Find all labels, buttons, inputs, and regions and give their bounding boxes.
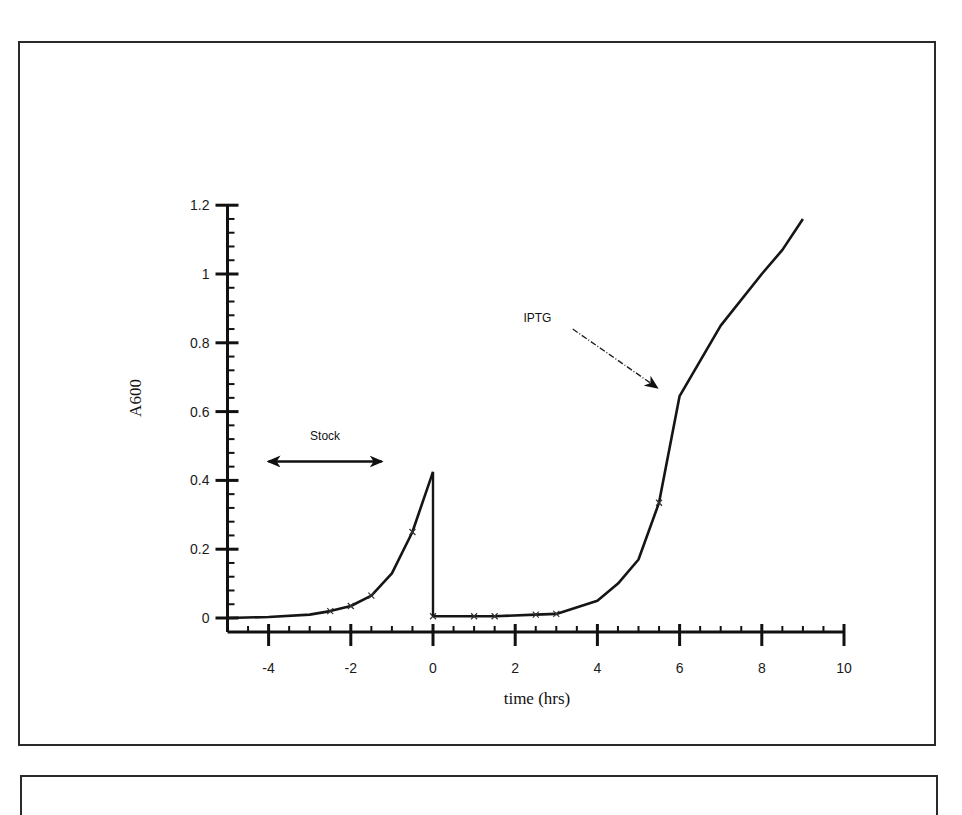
x-tick-label: -4 (262, 660, 275, 676)
annotations: StockIPTG (269, 311, 657, 461)
y-tick-label: 0 (202, 610, 210, 626)
y-tick-label: 1.2 (190, 197, 210, 213)
x-tick-label: 6 (676, 660, 684, 676)
y-axis-ticks: 00.20.40.60.811.2 (190, 197, 238, 626)
iptg-arrow (573, 329, 657, 387)
x-tick-label: 10 (836, 660, 852, 676)
data-series (228, 219, 803, 619)
stock-label: Stock (310, 429, 341, 443)
y-tick-label: 0.6 (190, 404, 210, 420)
x-axis-title: time (hrs) (504, 689, 571, 708)
x-tick-label: 2 (511, 660, 519, 676)
y-tick-label: 0.4 (190, 472, 210, 488)
y-axis-title: A600 (126, 379, 145, 417)
y-tick-label: 1 (202, 266, 210, 282)
axes (228, 205, 845, 632)
x-tick-label: 4 (594, 660, 602, 676)
series-line-1 (228, 472, 434, 618)
x-tick-label: 0 (429, 660, 437, 676)
x-tick-label: -2 (345, 660, 358, 676)
y-tick-label: 0.8 (190, 335, 210, 351)
series-line-2 (433, 219, 803, 616)
iptg-label: IPTG (523, 311, 551, 325)
x-tick-label: 8 (758, 660, 766, 676)
y-tick-label: 0.2 (190, 541, 210, 557)
